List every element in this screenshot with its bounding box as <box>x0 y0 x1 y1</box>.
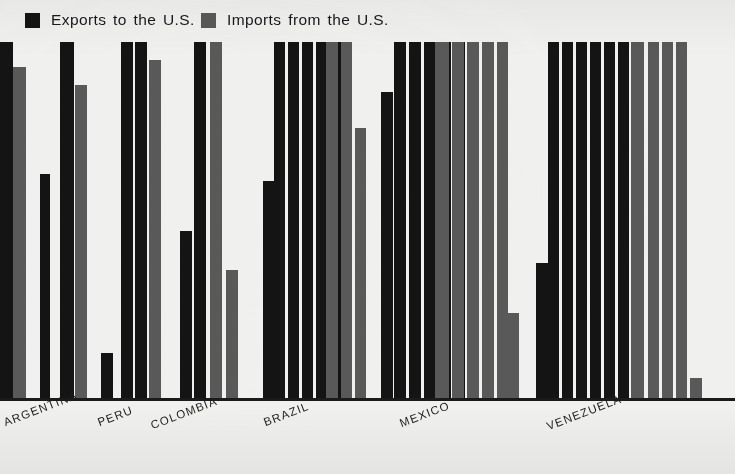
bar <box>394 42 406 399</box>
bar <box>482 42 494 399</box>
bar <box>435 42 449 399</box>
bar <box>452 42 464 399</box>
chart-page: Exports to the U.S. Imports from the U.S… <box>0 0 735 474</box>
bar <box>590 42 601 399</box>
bar <box>618 42 629 399</box>
bar <box>507 313 519 399</box>
bar <box>355 128 366 399</box>
legend-item-imports: Imports from the U.S. <box>201 11 389 29</box>
bar <box>194 42 206 399</box>
bar <box>210 42 222 399</box>
x-axis-label: BRAZIL <box>262 400 311 428</box>
plot-area <box>0 42 735 399</box>
bar <box>326 42 338 399</box>
bar <box>75 85 87 399</box>
bar <box>690 378 702 399</box>
bar <box>180 231 192 399</box>
chart-legend: Exports to the U.S. Imports from the U.S… <box>0 0 735 40</box>
legend-swatch-exports-icon <box>25 13 40 28</box>
legend-item-exports: Exports to the U.S. <box>25 11 195 29</box>
bar <box>562 42 573 399</box>
bar <box>40 174 50 399</box>
bar <box>662 42 673 399</box>
bar <box>226 270 238 399</box>
bar <box>149 60 161 399</box>
bar <box>536 263 548 399</box>
legend-swatch-imports-icon <box>201 13 216 28</box>
bar <box>467 42 479 399</box>
legend-label-exports: Exports to the U.S. <box>51 11 195 29</box>
bar <box>341 42 352 399</box>
bar <box>101 353 113 399</box>
bar <box>409 42 421 399</box>
bar <box>13 67 26 399</box>
bar <box>381 92 393 399</box>
bar <box>676 42 687 399</box>
bar <box>648 42 659 399</box>
legend-label-imports: Imports from the U.S. <box>227 11 389 29</box>
bar <box>604 42 615 399</box>
bar <box>631 42 644 399</box>
bar <box>60 42 74 399</box>
bar <box>135 42 147 399</box>
bar <box>548 42 559 399</box>
bar <box>576 42 587 399</box>
bar <box>0 42 13 399</box>
bar <box>274 42 285 399</box>
x-axis-label: COLOMBIA <box>149 395 219 431</box>
x-axis-label: PERU <box>96 404 135 428</box>
x-axis-labels: ARGENTINAPERUCOLOMBIABRAZILMEXICOVENEZUE… <box>0 399 735 474</box>
bar <box>288 42 299 399</box>
x-axis-label: MEXICO <box>398 399 451 429</box>
bar <box>121 42 133 399</box>
bar <box>302 42 313 399</box>
x-axis-label: VENEZUELA <box>545 393 623 433</box>
